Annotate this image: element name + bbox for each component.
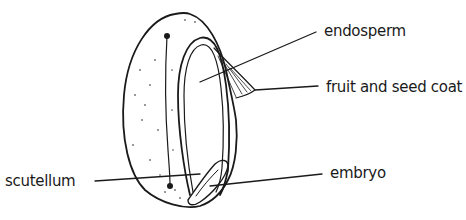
- leader-fruit-seed-coat: [255, 86, 318, 90]
- label-fruit-and-seed-coat: fruit and seed coat: [326, 78, 462, 96]
- label-endosperm: endosperm: [324, 22, 406, 40]
- label-embryo: embryo: [330, 164, 386, 182]
- vascular-trace: [166, 36, 170, 185]
- leader-scutellum: [95, 174, 200, 181]
- label-scutellum: scutellum: [5, 172, 75, 190]
- leader-endosperm: [200, 32, 316, 82]
